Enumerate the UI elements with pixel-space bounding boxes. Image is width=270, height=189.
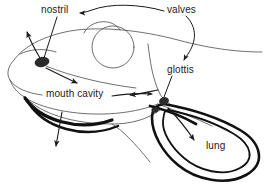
- leader-glottis-label: [164, 76, 172, 97]
- arrow-air-back-from-glottis: [130, 90, 158, 95]
- ventral-outline: [112, 124, 150, 162]
- arrow-mouth-floor-depression: [56, 112, 62, 146]
- mouth-floor-lower: [28, 102, 118, 132]
- label-lung: lung: [206, 140, 225, 151]
- arrow-air-out-of-nostril: [27, 32, 40, 58]
- eye-circle: [92, 26, 134, 68]
- leader-lines-group: [44, 5, 195, 97]
- label-glottis: glottis: [167, 64, 194, 75]
- mouth-floor-upper: [25, 98, 112, 125]
- anatomy-markers-group: [34, 56, 170, 114]
- buccal-roof-line: [46, 66, 136, 88]
- label-valves: valves: [167, 4, 196, 15]
- snout-fold: [20, 50, 56, 54]
- eyelid-arc: [84, 22, 120, 33]
- leader-valves-to-glottis: [184, 16, 195, 60]
- diagram-canvas: [0, 0, 270, 189]
- head-dorsal-outline: [14, 29, 262, 60]
- respiration-diagram: nostril valves mouth cavity glottis lung: [0, 0, 270, 189]
- label-mouth-cavity: mouth cavity: [46, 88, 103, 99]
- leader-valves-to-nostril: [80, 5, 164, 13]
- label-nostril: nostril: [41, 4, 68, 15]
